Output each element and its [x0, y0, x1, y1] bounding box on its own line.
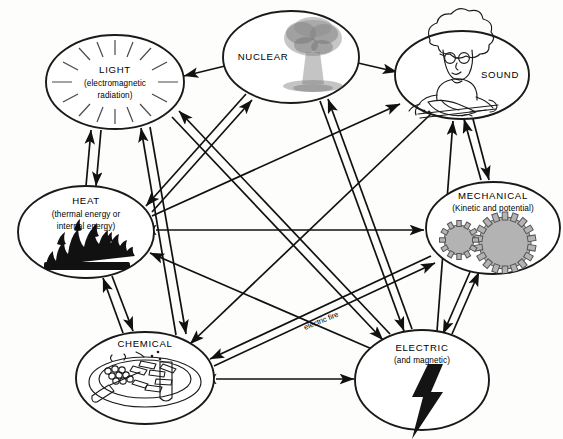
edge-sound-to-mechanical: [473, 119, 489, 180]
light-sublabel-1: (electromagnetic: [84, 79, 146, 88]
energy-diagram-canvas: electric fire: [0, 0, 563, 439]
node-chemical[interactable]: CHEMICAL: [76, 332, 214, 424]
edge-nuclear-to-sound: [358, 63, 397, 72]
edge-heat-to-nuclear: [152, 100, 252, 212]
node-light[interactable]: LIGHT (electromagnetic radiation): [46, 35, 184, 129]
nuclear-label: NUCLEAR: [238, 51, 289, 62]
edge-light-to-electric: [172, 117, 383, 340]
edge-chemical-to-heat: [103, 278, 123, 333]
heat-sublabel-2: internal energy): [57, 222, 116, 231]
heat-sublabel-1: (thermal energy or: [52, 210, 121, 219]
edge-mechanical-to-sound: [464, 119, 481, 180]
chemical-label: CHEMICAL: [117, 338, 172, 349]
edge-heat-to-chemical: [112, 276, 133, 331]
heat-label: HEAT: [72, 195, 100, 206]
edge-light-to-heat: [96, 130, 101, 186]
edge-nuclear-to-light: [184, 66, 225, 76]
edge-electric-to-light: [179, 111, 390, 334]
edge-heat-to-light: [86, 130, 91, 186]
electric-sublabel-1: (and magnetic): [394, 356, 450, 365]
node-sound[interactable]: SOUND: [395, 9, 529, 119]
node-mechanical[interactable]: MECHANICAL (Kinetic and potential): [426, 182, 560, 274]
mechanical-sublabel-1: (Kinetic and potential): [452, 204, 534, 213]
energy-transformation-diagram: electric fire: [0, 0, 563, 439]
mechanical-label: MECHANICAL: [458, 190, 528, 201]
light-label: LIGHT: [99, 64, 131, 75]
sound-label: SOUND: [481, 69, 519, 80]
node-electric[interactable]: ELECTRIC (and magnetic): [355, 330, 489, 439]
node-heat[interactable]: HEAT (thermal energy or internal energy): [18, 186, 154, 278]
node-nuclear[interactable]: NUCLEAR: [223, 11, 359, 103]
light-sublabel-2: radiation): [97, 91, 132, 100]
electric-label: ELECTRIC: [395, 342, 448, 353]
